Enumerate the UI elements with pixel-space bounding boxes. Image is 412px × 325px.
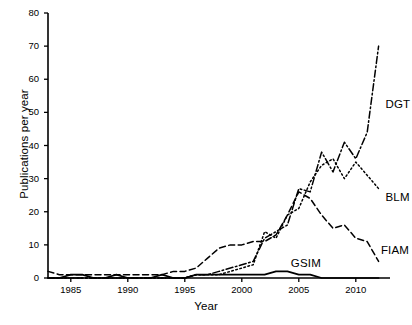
x-tick-label: 1990 bbox=[108, 284, 148, 295]
y-tick-label: 80 bbox=[17, 7, 39, 18]
x-axis-title: Year bbox=[176, 300, 236, 312]
chart-series-lines bbox=[48, 46, 379, 278]
x-tick-label: 2005 bbox=[279, 284, 319, 295]
series-label-gsim: GSIM bbox=[291, 257, 321, 269]
series-line-dgt bbox=[48, 46, 379, 278]
x-tick-label: 2000 bbox=[222, 284, 262, 295]
series-label-fiam: FIAM bbox=[381, 244, 409, 256]
y-tick-label: 20 bbox=[17, 206, 39, 217]
series-label-blm: BLM bbox=[385, 191, 409, 203]
series-line-fiam bbox=[48, 192, 379, 275]
y-tick-label: 50 bbox=[17, 106, 39, 117]
x-tick-label: 1995 bbox=[165, 284, 205, 295]
x-tick-label: 2010 bbox=[336, 284, 376, 295]
chart-canvas bbox=[0, 0, 412, 325]
y-tick-label: 0 bbox=[17, 272, 39, 283]
x-tick-label: 1985 bbox=[51, 284, 91, 295]
series-line-blm bbox=[48, 159, 379, 278]
y-tick-label: 60 bbox=[17, 73, 39, 84]
publications-per-year-chart: Publications per year Year 0102030405060… bbox=[0, 0, 412, 325]
y-tick-label: 70 bbox=[17, 40, 39, 51]
y-tick-label: 10 bbox=[17, 239, 39, 250]
series-label-dgt: DGT bbox=[385, 98, 410, 110]
y-tick-label: 40 bbox=[17, 140, 39, 151]
chart-axes bbox=[44, 13, 390, 282]
y-tick-label: 30 bbox=[17, 173, 39, 184]
